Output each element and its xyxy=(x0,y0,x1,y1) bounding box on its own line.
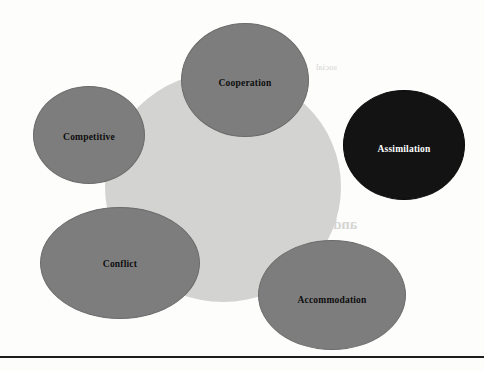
diagram-node-competitive[interactable]: Competitive xyxy=(33,86,145,184)
diagram-node-conflict[interactable]: Conflict xyxy=(40,207,200,319)
diagram-node-label: Competitive xyxy=(63,133,115,143)
diagram-node-assimilation[interactable]: Assimilation xyxy=(343,90,465,200)
scanned-page: and process Theory the action of the soc… xyxy=(0,0,484,371)
diagram-node-label: Assimilation xyxy=(377,145,430,155)
diagram-node-label: Conflict xyxy=(103,260,137,270)
diagram-node-accommodation[interactable]: Accommodation xyxy=(258,240,406,350)
concept-diagram: Competitive Cooperation Assimilation Con… xyxy=(0,0,484,371)
diagram-node-label: Cooperation xyxy=(219,79,272,89)
page-bottom-rule xyxy=(0,356,484,358)
diagram-node-cooperation[interactable]: Cooperation xyxy=(181,23,309,137)
diagram-node-label: Accommodation xyxy=(297,296,366,306)
